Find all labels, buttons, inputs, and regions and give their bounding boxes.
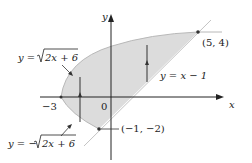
lower-label-radical: 2x + 6 <box>41 138 76 149</box>
upper-label-radical: 2x + 6 <box>44 52 79 63</box>
tick-zero: 0 <box>101 101 107 112</box>
y-axis-arrow-icon <box>108 14 114 22</box>
label-point-neg1-neg2: (−1, −2) <box>121 123 165 134</box>
point-neg1-neg2 <box>97 127 101 131</box>
lower-label-prefix: y = − <box>7 138 37 149</box>
y-axis-label: y <box>101 11 108 22</box>
label-point-5-4: (5, 4) <box>202 37 229 48</box>
tick-neg-three: −3 <box>42 101 57 112</box>
label-upper-curve: y = 2x + 6 <box>17 49 79 63</box>
label-lower-curve: y = − 2x + 6 <box>7 135 76 149</box>
point-5-4 <box>196 30 200 34</box>
point-neg3-0 <box>60 96 63 99</box>
x-axis-arrow-icon <box>216 94 224 100</box>
label-line: y = x − 1 <box>159 70 207 81</box>
upper-label-prefix: y = <box>17 52 35 63</box>
region-diagram: y x −3 0 (5, 4) (−1, −2) y = x − 1 y = 2… <box>0 0 252 163</box>
x-axis-label: x <box>229 99 235 110</box>
